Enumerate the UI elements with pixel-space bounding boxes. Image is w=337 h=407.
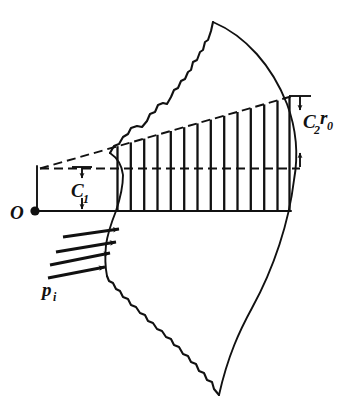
origin-point	[30, 206, 39, 215]
pressure-label-base: p	[40, 279, 52, 300]
c2r0-label-sub: 2	[313, 123, 320, 137]
pressure-distribution-diagram: O C 1 C 2 r 0 p i	[0, 0, 337, 407]
canvas-background	[0, 0, 337, 407]
c1-label-sub: 1	[83, 192, 89, 206]
figure-root: O C 1 C 2 r 0 p i	[0, 0, 337, 407]
c2r0-label-sub2: 0	[327, 119, 333, 133]
origin-label: O	[10, 202, 24, 223]
